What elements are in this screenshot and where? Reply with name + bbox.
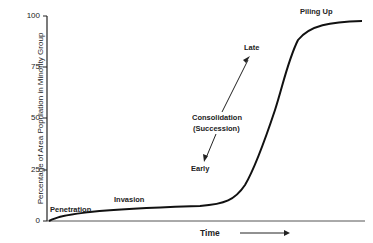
- early-arrow-line: [206, 134, 216, 158]
- time-arrowhead-icon: [284, 230, 290, 236]
- label-succession: (Succession): [193, 124, 240, 133]
- label-piling-up: Piling Up: [300, 7, 333, 16]
- label-late: Late: [244, 43, 259, 52]
- late-arrow-line: [222, 60, 248, 112]
- label-penetration: Penetration: [50, 205, 91, 214]
- x-axis-label: Time: [200, 228, 220, 238]
- label-early: Early: [191, 164, 209, 173]
- late-arrowhead-icon: [243, 56, 250, 63]
- y-axis-label: Percentage of Area Population in Minorit…: [36, 19, 45, 219]
- label-invasion: Invasion: [114, 195, 144, 204]
- label-consolidation: Consolidation: [192, 113, 242, 122]
